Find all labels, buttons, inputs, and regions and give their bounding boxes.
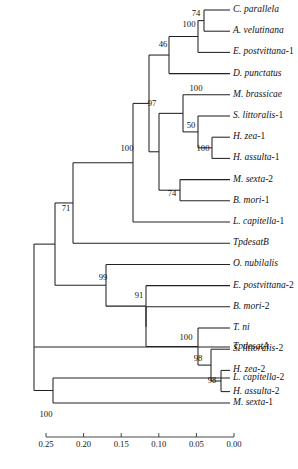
tip-label: TpdesatB [233, 237, 269, 247]
tip-label: E. postvittana-2 [232, 280, 294, 290]
tip-label: D. punctatus [232, 68, 282, 78]
bootstrap-value: 97 [148, 98, 157, 108]
bootstrap-value: 50 [187, 120, 196, 130]
bootstrap-value: 100 [121, 143, 134, 153]
tip-label: B. mori-2 [233, 301, 270, 311]
tip-label: A. velutinana [232, 25, 284, 35]
bootstrap-value: 98 [194, 353, 203, 363]
bootstrap-value: 98 [208, 375, 217, 385]
bootstrap-value: 71 [62, 203, 71, 213]
scale-tick-label: 0.10 [151, 439, 166, 449]
tip-label: E. postvittana-1 [232, 47, 294, 57]
tip-label: B. mori-1 [233, 195, 270, 205]
scale-tick-label: 0.20 [76, 439, 91, 449]
bootstrap-value: 100 [190, 83, 203, 93]
bootstrap-value: 74 [168, 188, 177, 198]
tip-label: M. sexta-1 [232, 397, 273, 407]
bootstrap-value: 91 [135, 290, 144, 300]
scale-tick-label: 0.00 [226, 439, 241, 449]
tip-label: TpdesatA [233, 341, 269, 351]
tip-label: H. assulta-2 [232, 386, 280, 396]
tree-canvas: C. parallelaA. velutinanaE. postvittana-… [0, 0, 298, 469]
bootstrap-value: 100 [183, 19, 196, 29]
tip-label: O. nubilalis [233, 259, 278, 269]
scale-tick-label: 0.25 [38, 439, 53, 449]
phylogenetic-tree-figure: C. parallelaA. velutinanaE. postvittana-… [0, 0, 298, 469]
scale-tick-label: 0.15 [114, 439, 129, 449]
tip-label: C. parallela [233, 4, 279, 14]
tip-label: L. capitella-1 [232, 216, 284, 226]
tip-label: T. ni [233, 322, 250, 332]
scale-axis: 0.250.200.150.100.050.00 [38, 433, 241, 449]
bootstrap-value: 100 [40, 409, 53, 419]
tip-label: L. capitella-2 [232, 372, 284, 382]
bootstrap-labels: 74100461009750100741007199911009898100 [40, 8, 217, 419]
bootstrap-value: 100 [197, 143, 210, 153]
tip-label: H. assulta-1 [232, 153, 280, 163]
tip-label: H. zea-1 [232, 131, 265, 141]
scale-tick-label: 0.05 [189, 439, 204, 449]
tip-label: M. sexta-2 [232, 174, 273, 184]
bootstrap-value: 99 [99, 272, 108, 282]
bootstrap-value: 46 [159, 39, 168, 49]
bootstrap-value: 100 [180, 332, 193, 342]
tree-tip-labels: C. parallelaA. velutinanaE. postvittana-… [232, 4, 294, 407]
tip-label: S. littoralis-1 [233, 110, 283, 120]
bootstrap-value: 74 [192, 8, 201, 18]
tip-label: M. brassicae [232, 89, 282, 99]
